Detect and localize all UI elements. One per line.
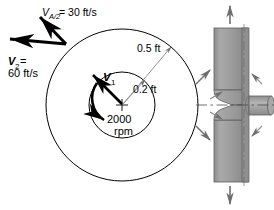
- rotation-arc-arrow: [92, 83, 104, 120]
- rotation-speed-value: 2000: [107, 113, 131, 125]
- deflect-arrow-upper-right: [252, 74, 262, 84]
- v2-label: V 2 = 60 ft/s: [8, 55, 38, 79]
- vane-assembly: [196, 6, 274, 204]
- diagram-canvas: 0.5 ft 0.2 ft V 1 2000 rpm V A/2 = 30 ft…: [0, 0, 274, 210]
- svg-text:1: 1: [111, 78, 116, 87]
- deflect-arrow-lower-right: [252, 126, 262, 136]
- deflect-arrow-upper-left: [196, 70, 210, 84]
- rotation-speed-unit: rpm: [114, 125, 133, 137]
- svg-text:60 ft/s: 60 ft/s: [8, 67, 38, 79]
- radius-outer-label: 0.5 ft: [137, 42, 160, 54]
- svg-text:=: =: [20, 55, 26, 67]
- radius-inner-label: 0.2 ft: [133, 83, 156, 95]
- disk-assembly: 0.5 ft 0.2 ft V 1 2000 rpm V A/2 = 30 ft…: [8, 6, 198, 181]
- va2-label: V A/2 = 30 ft/s: [42, 6, 97, 21]
- diagram-svg: 0.5 ft 0.2 ft V 1 2000 rpm V A/2 = 30 ft…: [0, 0, 274, 210]
- shaft-end-cap: [267, 96, 274, 115]
- v2-vector-arrow: [10, 39, 66, 44]
- svg-text:= 30 ft/s: = 30 ft/s: [59, 6, 97, 18]
- va2-vector-arrow: [40, 17, 66, 44]
- radius-outer-leader: [123, 47, 171, 104]
- deflect-arrow-lower-left: [196, 126, 210, 140]
